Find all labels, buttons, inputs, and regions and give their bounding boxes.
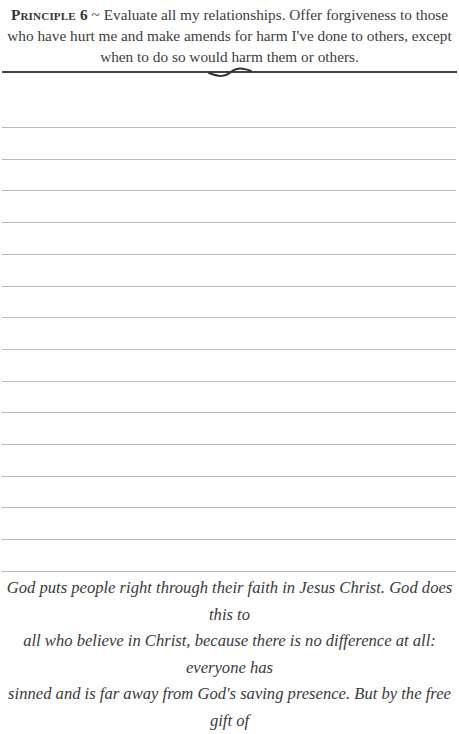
writing-line bbox=[2, 317, 456, 318]
writing-line bbox=[2, 507, 456, 508]
writing-line bbox=[2, 444, 456, 445]
quote-line: all who believe in Christ, because there… bbox=[0, 628, 459, 681]
separator: ~ bbox=[88, 6, 104, 23]
writing-line bbox=[2, 127, 456, 128]
writing-line bbox=[2, 539, 456, 540]
writing-line bbox=[2, 571, 456, 572]
writing-line bbox=[2, 254, 456, 255]
quote-line: God puts people right through their fait… bbox=[0, 575, 459, 628]
writing-line bbox=[2, 349, 456, 350]
flourish-ornament-icon bbox=[205, 65, 255, 81]
writing-line bbox=[2, 190, 456, 191]
principle-label: Principle 6 bbox=[11, 6, 88, 23]
quote-line: sinned and is far away from God's saving… bbox=[0, 681, 459, 734]
writing-line bbox=[2, 476, 456, 477]
writing-line bbox=[2, 412, 456, 413]
scripture-quote: God puts people right through their fait… bbox=[0, 575, 459, 734]
writing-line bbox=[2, 286, 456, 287]
writing-line bbox=[2, 381, 456, 382]
writing-line bbox=[2, 222, 456, 223]
writing-line bbox=[2, 159, 456, 160]
principle-header: Principle 6 ~ Evaluate all my relationsh… bbox=[0, 4, 459, 67]
